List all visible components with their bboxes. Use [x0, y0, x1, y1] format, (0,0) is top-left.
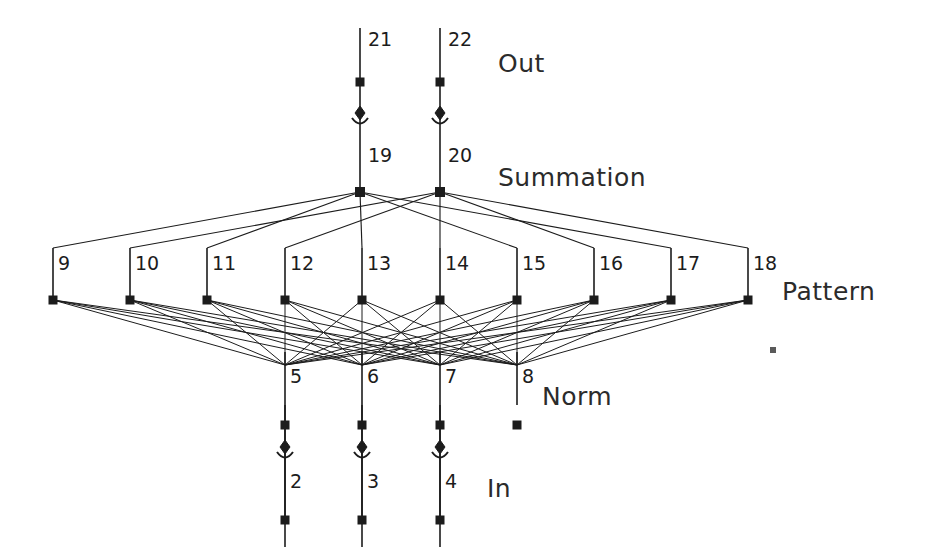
node-14 — [436, 296, 445, 305]
wire-pattern-18-norm-8 — [517, 300, 748, 365]
node-4 — [436, 516, 445, 525]
wire-pattern-11-to-sum-19 — [207, 192, 360, 248]
node-7 — [436, 421, 445, 430]
wire-pattern-17-to-sum-19 — [360, 192, 671, 248]
node-number-labels: 2122192091011121314151617185678234 — [58, 28, 777, 492]
wire-pattern-18-norm-7 — [440, 300, 748, 365]
node-label-18: 18 — [753, 252, 777, 274]
pattern-to-summation-wires — [53, 192, 748, 248]
node-16 — [590, 296, 599, 305]
node-11 — [203, 296, 212, 305]
node-13 — [358, 296, 367, 305]
layer-label-norm: Norm — [542, 382, 612, 411]
node-15 — [513, 296, 522, 305]
layer-name-labels: OutSummationPatternNormIn — [487, 49, 875, 503]
wire-pattern-17-norm-5 — [285, 300, 671, 365]
arrow-in-2-diamond — [280, 440, 290, 454]
wire-pattern-9-to-sum-19 — [53, 192, 360, 248]
node-5 — [281, 421, 290, 430]
node-label-11: 11 — [212, 252, 236, 274]
layer-label-pattern: Pattern — [782, 277, 875, 306]
wire-pattern-11-norm-5 — [207, 300, 285, 365]
node-markers — [49, 78, 753, 525]
node-12 — [281, 296, 290, 305]
vertical-trunk-lines — [53, 28, 748, 547]
node-label-16: 16 — [599, 252, 623, 274]
wire-pattern-12-to-sum-20 — [285, 192, 440, 248]
node-label-17: 17 — [676, 252, 700, 274]
node-6 — [358, 421, 367, 430]
node-label-8: 8 — [522, 365, 534, 387]
node-8 — [513, 421, 522, 430]
wire-pattern-15-to-sum-19 — [360, 192, 517, 248]
node-label-15: 15 — [522, 252, 546, 274]
node-label-20: 20 — [448, 144, 472, 166]
wire-pattern-18-to-sum-20 — [440, 192, 748, 248]
arrow-in-3-diamond — [357, 440, 367, 454]
layer-label-summation: Summation — [498, 163, 646, 192]
stray-marker — [770, 347, 776, 353]
node-9 — [49, 296, 58, 305]
network-diagram: 2122192091011121314151617185678234 OutSu… — [0, 0, 925, 547]
node-label-9: 9 — [58, 252, 70, 274]
wire-pattern-18-norm-6 — [362, 300, 748, 365]
node-label-10: 10 — [135, 252, 159, 274]
arrow-out-21-diamond — [355, 106, 365, 120]
node-label-2: 2 — [290, 470, 302, 492]
layer-label-in: In — [487, 474, 511, 503]
node-label-5: 5 — [290, 365, 302, 387]
node-label-6: 6 — [367, 365, 379, 387]
node-label-7: 7 — [445, 365, 457, 387]
node-label-14: 14 — [445, 252, 469, 274]
network-canvas: 2122192091011121314151617185678234 OutSu… — [0, 0, 925, 547]
node-label-4: 4 — [445, 470, 457, 492]
wire-pattern-10-norm-5 — [130, 300, 285, 365]
node-label-21: 21 — [368, 28, 392, 50]
node-label-19: 19 — [368, 144, 392, 166]
node-21 — [356, 78, 365, 87]
layer-label-out: Out — [498, 49, 545, 78]
node-19 — [355, 187, 365, 197]
node-label-13: 13 — [367, 252, 391, 274]
node-22 — [436, 78, 445, 87]
node-17 — [667, 296, 676, 305]
node-20 — [435, 187, 445, 197]
arrow-in-4-diamond — [435, 440, 445, 454]
node-18 — [744, 296, 753, 305]
node-label-3: 3 — [367, 470, 379, 492]
stray-square-marker — [770, 347, 776, 353]
node-label-12: 12 — [290, 252, 314, 274]
wire-pattern-9-norm-5 — [53, 300, 285, 365]
node-2 — [281, 516, 290, 525]
node-label-22: 22 — [448, 28, 472, 50]
arrow-out-22-diamond — [435, 106, 445, 120]
norm-to-pattern-wires — [53, 300, 748, 365]
node-3 — [358, 516, 367, 525]
node-10 — [126, 296, 135, 305]
